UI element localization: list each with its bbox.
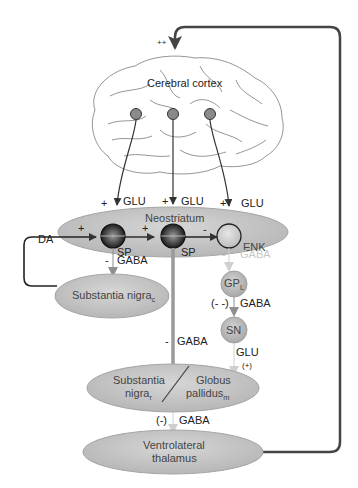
sp-neuron-2 bbox=[161, 224, 185, 248]
sp1-sp2-sign: + bbox=[142, 222, 148, 234]
output-connection-sign: (-) bbox=[156, 414, 167, 426]
cortical-neuron-2 bbox=[168, 109, 179, 120]
basal-ganglia-diagram: ++ Cerebral cortex + GLU + GLU + GLU Neo… bbox=[0, 0, 358, 488]
thalamus-label-line2: thalamus bbox=[152, 452, 197, 464]
input-3-transmitter: GLU bbox=[241, 197, 264, 209]
gpl-output-sign: (- -) bbox=[211, 297, 229, 309]
cerebral-cortex-label: Cerebral cortex bbox=[147, 77, 223, 89]
cortical-neuron-1 bbox=[131, 109, 142, 120]
input-3-sign: + bbox=[220, 197, 226, 209]
output-connection-transmitter: GABA bbox=[179, 414, 210, 426]
thalamus-label-line1: Ventrolateral bbox=[143, 439, 205, 451]
sp2-output-sign: - bbox=[165, 335, 169, 347]
enk-neuron bbox=[217, 224, 241, 248]
sp-neuron-2-label: SP bbox=[181, 246, 196, 258]
sn-output-transmitter: GLU bbox=[236, 346, 259, 358]
sp-neuron-1 bbox=[101, 224, 125, 248]
sp2-output-transmitter: GABA bbox=[177, 335, 208, 347]
sn-label: SN bbox=[226, 324, 241, 336]
brain-illustration bbox=[92, 56, 283, 174]
feedback-sign: ++ bbox=[157, 38, 167, 47]
gpm-label-line1: Globus bbox=[196, 374, 231, 386]
neostriatum-label: Neostriatum bbox=[145, 212, 204, 224]
input-1-transmitter: GLU bbox=[123, 195, 146, 207]
input-1-sign: + bbox=[101, 197, 107, 209]
input-2-sign: + bbox=[162, 195, 168, 207]
sp1-output-sign: - bbox=[105, 254, 109, 266]
da-sign: + bbox=[78, 222, 84, 234]
sp2-enk-sign: - bbox=[203, 223, 207, 235]
glu-projection-3 bbox=[210, 120, 229, 206]
snr-label-line1: Substantia bbox=[113, 374, 166, 386]
gpl-output-transmitter: GABA bbox=[240, 297, 271, 309]
enk-output-transmitter: GABA bbox=[240, 248, 271, 260]
sp1-output-transmitter: GABA bbox=[117, 254, 148, 266]
enk-output-sign: - bbox=[222, 248, 226, 260]
da-label: DA bbox=[38, 233, 54, 245]
cortical-neuron-3 bbox=[205, 109, 216, 120]
input-2-transmitter: GLU bbox=[181, 195, 204, 207]
sn-output-sign: (+) bbox=[242, 361, 252, 370]
glu-projection-1 bbox=[117, 120, 136, 205]
